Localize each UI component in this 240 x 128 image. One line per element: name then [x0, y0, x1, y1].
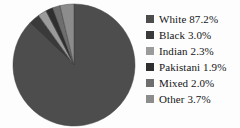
legend-swatch-other: [146, 95, 154, 103]
legend-label-white: White 87.2%: [159, 13, 218, 25]
legend-label-mixed: Mixed 2.0%: [159, 77, 214, 89]
legend-label-indian: Indian 2.3%: [159, 45, 214, 57]
pie-chart-figure: White 87.2% Black 3.0% Indian 2.3% Pakis…: [0, 0, 240, 128]
pie-chart-svg: [8, 1, 136, 128]
pie-plot-area: [8, 1, 136, 128]
pie-slice-group: [13, 4, 135, 126]
legend-swatch-mixed: [146, 79, 154, 87]
legend-label-other: Other 3.7%: [159, 93, 211, 105]
legend-item-other[interactable]: Other 3.7%: [146, 91, 240, 107]
legend-swatch-black: [146, 31, 154, 39]
chart-legend: White 87.2% Black 3.0% Indian 2.3% Pakis…: [146, 11, 240, 121]
legend-swatch-indian: [146, 47, 154, 55]
legend-item-mixed[interactable]: Mixed 2.0%: [146, 75, 240, 91]
legend-label-black: Black 3.0%: [159, 29, 211, 41]
legend-swatch-pakistani: [146, 63, 154, 71]
legend-swatch-white: [146, 15, 154, 23]
legend-label-pakistani: Pakistani 1.9%: [159, 61, 226, 73]
legend-item-white[interactable]: White 87.2%: [146, 11, 240, 27]
legend-item-pakistani[interactable]: Pakistani 1.9%: [146, 59, 240, 75]
legend-item-black[interactable]: Black 3.0%: [146, 27, 240, 43]
legend-item-indian[interactable]: Indian 2.3%: [146, 43, 240, 59]
